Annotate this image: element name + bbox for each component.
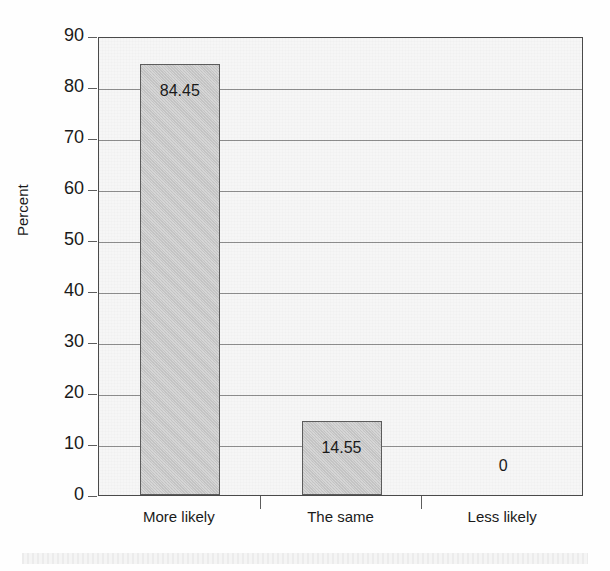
- y-tick-mark-40: [88, 292, 97, 293]
- y-tick-mark-50: [88, 241, 97, 242]
- y-tick-label-90: 90: [48, 26, 84, 44]
- y-tick-mark-90: [88, 37, 97, 38]
- y-tick-mark-10: [88, 445, 97, 446]
- y-tick-label-10: 10: [48, 434, 84, 452]
- y-tick-label-80: 80: [48, 77, 84, 95]
- bar-more-likely: [140, 64, 220, 495]
- x-axis-label-more-likely: More likely: [143, 508, 215, 525]
- bar-chart: Percent 0102030405060708090 84.4514.550 …: [0, 0, 610, 571]
- y-tick-mark-70: [88, 139, 97, 140]
- x-axis-label-the-same: The same: [307, 508, 374, 525]
- y-tick-mark-0: [88, 496, 97, 497]
- x-axis-label-less-likely: Less likely: [468, 508, 537, 525]
- plot-area: 84.4514.550: [98, 37, 583, 496]
- y-tick-label-50: 50: [48, 230, 84, 248]
- bar-value-label-more-likely: 84.45: [110, 82, 250, 100]
- y-tick-label-20: 20: [48, 383, 84, 401]
- y-tick-mark-80: [88, 88, 97, 89]
- y-tick-label-30: 30: [48, 332, 84, 350]
- y-tick-label-40: 40: [48, 281, 84, 299]
- y-tick-label-70: 70: [48, 128, 84, 146]
- y-tick-mark-30: [88, 343, 97, 344]
- y-tick-label-60: 60: [48, 179, 84, 197]
- y-tick-mark-60: [88, 190, 97, 191]
- x-tick-mark-2: [421, 496, 422, 509]
- y-tick-label-0: 0: [48, 485, 84, 503]
- x-tick-mark-1: [260, 496, 261, 509]
- y-axis-title: Percent: [14, 184, 31, 236]
- bar-value-label-the-same: 14.55: [272, 439, 412, 457]
- bar-the-same: [302, 421, 382, 495]
- scan-artifact-footer: [22, 553, 588, 564]
- bar-value-label-less-likely: 0: [433, 457, 573, 475]
- y-tick-mark-20: [88, 394, 97, 395]
